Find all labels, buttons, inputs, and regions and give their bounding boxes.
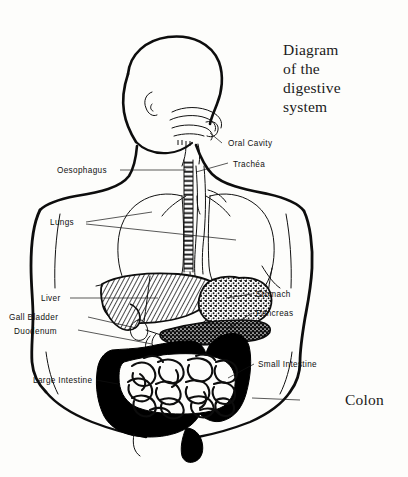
label-colon: Colon [345,391,384,408]
trachea-tube [184,160,193,272]
label-large-intestine: Large Intestine [33,376,93,385]
label-liver: Liver [41,294,61,303]
digestive-system-illustration: Oral Cavity Trachéa Oesophagus Lungs Liv… [0,0,408,477]
label-duodenum: Duodenum [14,327,57,336]
label-oesophagus: Oesophagus [57,166,107,175]
label-lungs: Lungs [50,218,74,227]
title-line-4: system [283,98,327,115]
title-line-1: Diagram [283,41,339,58]
label-small-intestine: Small Intestine [258,360,317,369]
label-pancreas: Pancreas [256,309,293,318]
label-stomach: Stomach [256,290,291,299]
label-trachea: Trachéa [233,160,265,169]
label-gall-bladder: Gall Bladder [9,313,58,322]
label-oral-cavity: Oral Cavity [228,139,273,148]
title-line-2: of the [283,60,320,77]
title-line-3: digestive [283,79,341,96]
digestive-system-diagram-page: Oral Cavity Trachéa Oesophagus Lungs Liv… [0,0,408,477]
